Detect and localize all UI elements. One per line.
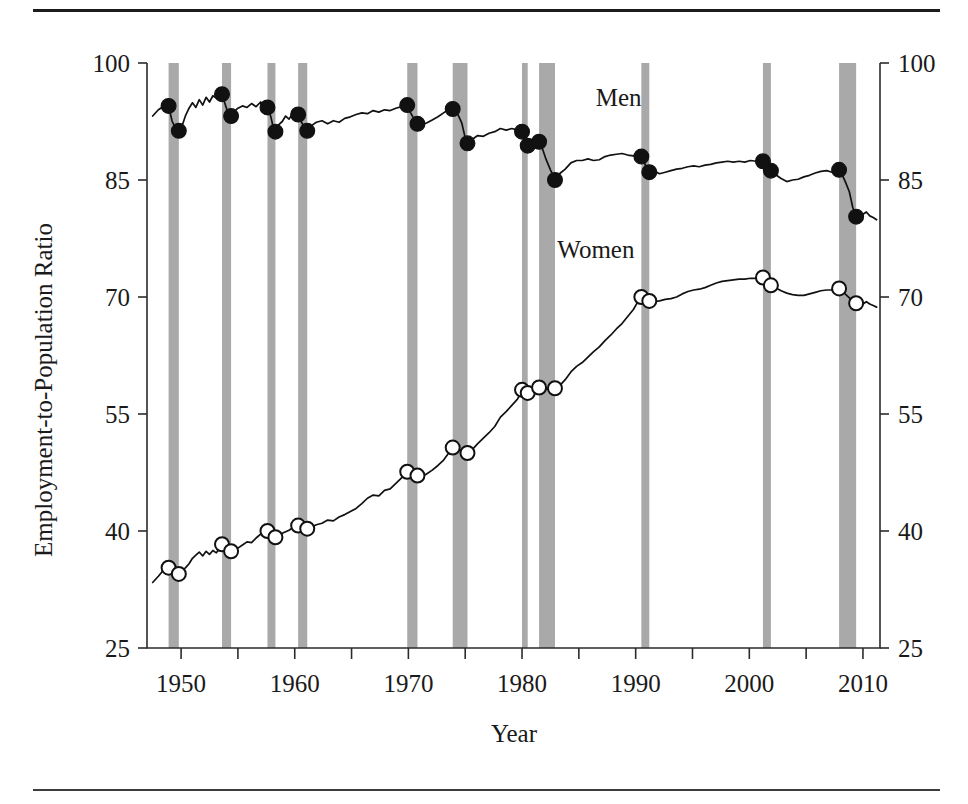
x-tick-label: 1980 [497,670,547,697]
axes-layer: 2525404055557070858510010019501960197019… [93,50,936,697]
recession-band [763,63,771,648]
y-tick-label-right: 40 [898,518,923,545]
marker-women-trough [642,294,656,308]
marker-women-trough [548,381,562,395]
figure-page: 2525404055557070858510010019501960197019… [0,0,968,804]
recession-bands-layer [169,63,857,648]
marker-men-peak [832,162,847,177]
x-tick-label: 2000 [724,670,774,697]
marker-men-peak [515,124,530,139]
marker-men-peak [400,98,415,113]
marker-men-trough [548,173,563,188]
marker-women-trough [224,544,238,558]
y-axis-title: Employment-to-Population Ratio [30,223,57,557]
marker-women-trough [300,522,314,536]
y-tick-label-right: 85 [898,167,923,194]
marker-women-trough [410,469,424,483]
y-tick-label-left: 85 [105,167,130,194]
marker-men-peak [215,87,230,102]
marker-men-trough [642,165,657,180]
marker-men-trough [764,163,779,178]
x-tick-label: 1960 [270,670,320,697]
y-tick-label-left: 40 [105,518,130,545]
series-annotation: Women [557,236,635,263]
x-axis-title: Year [491,720,538,747]
markers-layer [161,87,863,581]
marker-women-peak [446,441,460,455]
recession-band [539,63,555,648]
marker-men-peak [260,100,275,115]
marker-men-trough [849,209,864,224]
marker-men-trough [268,124,283,139]
series-annotation: Men [596,84,642,111]
x-tick-label: 1990 [611,670,661,697]
recession-band [839,63,856,648]
y-tick-label-left: 55 [105,401,130,428]
y-tick-label-right: 25 [898,635,923,662]
recession-band [222,63,231,648]
marker-men-peak [445,102,460,117]
marker-men-peak [532,134,547,149]
marker-men-trough [460,136,475,151]
marker-men-trough [300,123,315,138]
recession-band [298,63,307,648]
marker-women-trough [764,278,778,292]
marker-women-trough [460,446,474,460]
y-tick-label-left: 25 [105,635,130,662]
x-tick-label: 1950 [156,670,206,697]
marker-men-peak [634,149,649,164]
marker-men-trough [171,123,186,138]
marker-men-trough [224,109,239,124]
marker-women-peak [532,380,546,394]
x-tick-label: 2010 [838,670,888,697]
marker-women-peak [832,281,846,295]
y-tick-label-right: 55 [898,401,923,428]
labels-layer: MenWomen [557,84,642,263]
marker-women-trough [172,567,186,581]
y-tick-label-right: 70 [898,284,923,311]
y-tick-label-left: 70 [105,284,130,311]
marker-men-peak [161,99,176,114]
marker-women-trough [268,530,282,544]
recession-band [267,63,275,648]
y-tick-label-left: 100 [93,50,131,77]
recession-band [407,63,417,648]
employment-population-ratio-chart: 2525404055557070858510010019501960197019… [0,0,968,804]
marker-women-trough [849,296,863,310]
x-tick-label: 1970 [383,670,433,697]
marker-men-trough [410,116,425,131]
marker-men-peak [291,107,306,122]
y-tick-label-right: 100 [898,50,936,77]
